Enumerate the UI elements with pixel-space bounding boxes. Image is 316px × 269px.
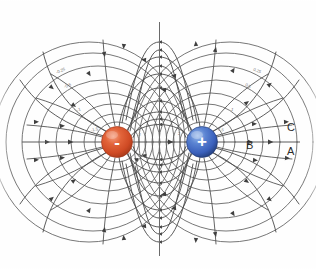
- dipole-figure: - + -0.25 -0.5 -1 -1.5 -2 2 1.5 1 0.5 0.…: [0, 0, 316, 269]
- region-label-c: C: [287, 122, 295, 133]
- potential-label: -2: [137, 133, 141, 137]
- potential-label: 2: [178, 132, 180, 136]
- region-label-b: B: [246, 140, 254, 151]
- field-diagram-svg: [0, 0, 316, 269]
- negative-charge-sign: -: [107, 134, 127, 151]
- dipole-axis: [22, 140, 300, 145]
- positive-charge-sign: +: [192, 133, 212, 150]
- potential-label: 1.5: [218, 128, 224, 133]
- region-label-a: A: [287, 146, 295, 157]
